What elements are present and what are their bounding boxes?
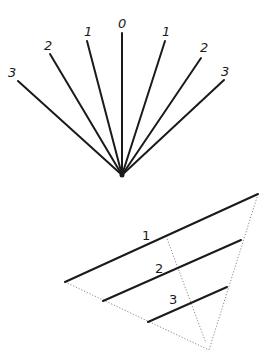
ray-label: 3 (221, 64, 229, 79)
ray-label: 1 (162, 24, 170, 39)
ray-label: 0 (118, 16, 126, 31)
fan-ray (50, 54, 122, 175)
apex-point (120, 173, 125, 178)
ray-label: 1 (84, 24, 92, 39)
diagram-canvas: 3210123 123 (0, 0, 264, 354)
ray-label: 2 (200, 40, 208, 55)
fan-ray (122, 58, 201, 175)
ray-label: 3 (8, 65, 16, 80)
triangle-diagram: 123 (65, 194, 258, 350)
line-label: 2 (155, 261, 163, 276)
fan-ray (87, 41, 122, 175)
dotted-construction-line (209, 194, 258, 350)
line-label: 3 (169, 292, 177, 307)
ray-label: 2 (44, 38, 52, 53)
fan-ray (18, 81, 122, 175)
dotted-construction-line (166, 236, 206, 343)
fan-diagram: 3210123 (8, 16, 229, 178)
line-label: 1 (142, 228, 150, 243)
